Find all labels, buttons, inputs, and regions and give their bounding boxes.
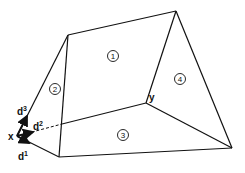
face-labels: 1 2 3 4 <box>50 51 186 141</box>
svg-text:4: 4 <box>178 75 183 84</box>
edge-front-vertical <box>59 35 68 157</box>
edge-cross-y <box>62 103 146 124</box>
vector-d3-label: d3 <box>17 105 27 117</box>
point-y-label: y <box>149 92 155 103</box>
vector-d1-arrow <box>17 136 29 143</box>
face-1-label: 1 <box>108 51 119 62</box>
face-2-label: 2 <box>50 84 61 95</box>
edge-top <box>68 11 176 35</box>
vectors <box>17 116 33 143</box>
vector-d2-label: d2 <box>33 120 43 132</box>
edge-right <box>176 11 232 148</box>
svg-text:2: 2 <box>53 85 58 94</box>
edge-bottom <box>59 148 232 157</box>
edge-topright-y <box>146 11 176 103</box>
edge-y-bottomright <box>146 103 232 148</box>
svg-text:3: 3 <box>121 131 126 140</box>
face-3-label: 3 <box>118 130 129 141</box>
labels: x y d3 d2 d1 <box>8 92 155 162</box>
vector-d1-label: d1 <box>18 150 28 162</box>
svg-text:1: 1 <box>111 52 116 61</box>
polyhedron-diagram: x y d3 d2 d1 1 2 3 4 <box>0 0 245 173</box>
face-4-label: 4 <box>175 74 186 85</box>
point-x-label: x <box>8 131 14 142</box>
